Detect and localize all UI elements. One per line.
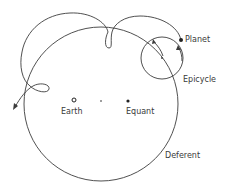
path-arrow-icon (13, 103, 18, 110)
equant-label: Equant (126, 107, 154, 116)
planet-label: Planet (185, 35, 210, 44)
ptolemaic-diagram: Planet Epicycle Earth Equant Deferent (0, 0, 230, 183)
deferent-circle (24, 27, 178, 181)
epicycle-label: Epicycle (183, 75, 216, 84)
earth-marker (72, 98, 76, 102)
deferent-label: Deferent (165, 151, 200, 160)
deferent-center-dot (100, 100, 102, 102)
planet-dot (179, 38, 183, 42)
equant-marker (126, 99, 129, 102)
earth-label: Earth (61, 107, 82, 116)
epicycle-center-dot (161, 57, 163, 59)
